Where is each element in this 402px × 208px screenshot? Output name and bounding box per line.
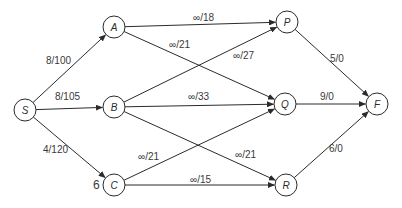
- node-label: B: [111, 102, 118, 113]
- edge-labels: 8/1008/1054/120∞/18∞/21∞/27∞/33∞/21∞/21∞…: [43, 12, 344, 185]
- annotations: 6: [93, 178, 100, 192]
- node-label: A: [110, 22, 118, 33]
- node-label: R: [282, 180, 289, 191]
- node-label: P: [284, 17, 291, 28]
- edge-label-a-p: ∞/18: [193, 12, 214, 23]
- node-q: Q: [274, 93, 296, 115]
- edge-label-s-a: 8/100: [46, 55, 71, 66]
- edge-label-c-q: ∞/21: [138, 151, 159, 162]
- node-b: B: [103, 96, 125, 118]
- edge-label-b-q: ∞/33: [188, 91, 209, 102]
- edge-b-q: [125, 104, 274, 107]
- node-label: Q: [281, 99, 289, 110]
- node-label: S: [22, 105, 29, 116]
- edge-label-b-p: ∞/27: [233, 50, 254, 61]
- edges: [33, 22, 369, 185]
- edge-label-r-f: 6/0: [329, 143, 343, 154]
- edge-label-a-q: ∞/21: [169, 39, 190, 50]
- annotation-c: 6: [93, 178, 100, 192]
- edge-label-q-f: 9/0: [320, 91, 334, 102]
- node-p: P: [276, 11, 298, 33]
- node-label: F: [374, 99, 381, 110]
- node-r: R: [275, 174, 297, 196]
- edge-label-c-r: ∞/15: [190, 174, 211, 185]
- edge-s-b: [36, 107, 103, 109]
- node-s: S: [14, 99, 36, 121]
- node-a: A: [103, 16, 125, 38]
- edge-label-p-f: 5/0: [330, 53, 344, 64]
- node-c: C: [103, 174, 125, 196]
- edge-label-s-b: 8/105: [55, 91, 80, 102]
- edge-label-s-c: 4/120: [43, 144, 68, 155]
- flow-network-diagram: 8/1008/1054/120∞/18∞/21∞/27∞/33∞/21∞/21∞…: [0, 0, 402, 208]
- node-f: F: [366, 93, 388, 115]
- node-label: C: [110, 180, 118, 191]
- edge-label-b-r: ∞/21: [235, 149, 256, 160]
